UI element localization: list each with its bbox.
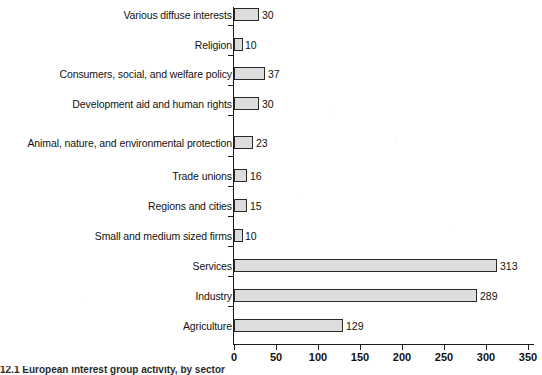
bar-value-label: 37 bbox=[268, 64, 280, 84]
bar-row: Industry 289 bbox=[0, 286, 534, 306]
bar-services bbox=[234, 259, 497, 272]
category-label: Religion bbox=[195, 35, 232, 55]
category-label: Trade unions bbox=[172, 166, 232, 186]
category-label: Various diffuse interests bbox=[123, 5, 232, 25]
x-axis-tick bbox=[402, 345, 403, 350]
x-axis-tick-label: 150 bbox=[340, 351, 380, 363]
y-axis-tick bbox=[228, 55, 234, 56]
bar-consumers-social-welfare-policy bbox=[234, 67, 265, 80]
bar-row: Animal, nature, and environmental protec… bbox=[0, 133, 534, 153]
category-label: Animal, nature, and environmental protec… bbox=[27, 133, 232, 153]
bar-industry bbox=[234, 289, 477, 302]
bar-regions-and-cities bbox=[234, 199, 247, 212]
bar-animal-nature-environmental-protection bbox=[234, 136, 253, 149]
y-axis-tick bbox=[228, 216, 234, 217]
category-label: Consumers, social, and welfare policy bbox=[59, 64, 232, 84]
x-axis-tick-label: 200 bbox=[382, 351, 422, 363]
bar-row: Small and medium sized firms 10 bbox=[0, 226, 534, 246]
category-label: Services bbox=[193, 256, 232, 276]
figure-caption: 12.1 European interest group activity, b… bbox=[0, 366, 534, 375]
x-axis-tick bbox=[276, 345, 277, 350]
bar-trade-unions bbox=[234, 169, 247, 182]
bar-row: Various diffuse interests 30 bbox=[0, 5, 534, 25]
category-label: Agriculture bbox=[183, 316, 232, 336]
bar-agriculture bbox=[234, 319, 343, 332]
bar-development-aid-human-rights bbox=[234, 97, 259, 110]
x-axis-tick-label: 100 bbox=[298, 351, 338, 363]
bar-value-label: 10 bbox=[245, 226, 257, 246]
category-label: Small and medium sized firms bbox=[95, 226, 232, 246]
y-axis-tick bbox=[228, 246, 234, 247]
bar-row: Agriculture 129 bbox=[0, 316, 534, 336]
y-axis-line bbox=[233, 7, 234, 345]
x-axis-tick bbox=[360, 345, 361, 350]
category-label: Industry bbox=[195, 286, 232, 306]
bar-various-diffuse-interests bbox=[234, 8, 259, 21]
bar-value-label: 289 bbox=[480, 286, 498, 306]
y-axis-tick bbox=[228, 85, 234, 86]
bar-row: Trade unions 16 bbox=[0, 166, 534, 186]
x-axis-tick bbox=[234, 345, 235, 350]
bar-row: Development aid and human rights 30 bbox=[0, 94, 534, 114]
x-axis-tick-label: 350 bbox=[508, 351, 542, 363]
y-axis-tick bbox=[228, 276, 234, 277]
x-axis-tick bbox=[318, 345, 319, 350]
y-axis-tick bbox=[228, 156, 234, 157]
bar-row: Consumers, social, and welfare policy 37 bbox=[0, 64, 534, 84]
bar-small-and-medium-sized-firms bbox=[234, 229, 243, 242]
x-axis-tick-label: 300 bbox=[466, 351, 506, 363]
x-axis-tick-label: 50 bbox=[256, 351, 296, 363]
bar-religion bbox=[234, 38, 243, 51]
bar-row: Religion 10 bbox=[0, 35, 534, 55]
x-axis-tick bbox=[444, 345, 445, 350]
x-axis-tick-label: 0 bbox=[214, 351, 254, 363]
figure-caption-text: 12.1 European interest group activity, b… bbox=[0, 366, 225, 375]
category-label: Development aid and human rights bbox=[72, 94, 232, 114]
x-axis-tick bbox=[486, 345, 487, 350]
category-label: Regions and cities bbox=[148, 196, 232, 216]
y-axis-tick bbox=[228, 306, 234, 307]
bar-value-label: 10 bbox=[245, 35, 257, 55]
x-axis-line bbox=[233, 344, 534, 345]
bar-value-label: 16 bbox=[250, 166, 262, 186]
bar-value-label: 30 bbox=[262, 94, 274, 114]
bar-value-label: 30 bbox=[262, 5, 274, 25]
bar-value-label: 313 bbox=[500, 256, 518, 276]
y-axis-tick bbox=[228, 115, 234, 116]
x-axis-tick bbox=[528, 345, 529, 350]
bar-value-label: 15 bbox=[250, 196, 262, 216]
x-axis-tick-label: 250 bbox=[424, 351, 464, 363]
y-axis-tick bbox=[228, 186, 234, 187]
bar-row: Regions and cities 15 bbox=[0, 196, 534, 216]
y-axis-tick bbox=[228, 25, 234, 26]
bar-value-label: 129 bbox=[346, 316, 364, 336]
bar-row: Services 313 bbox=[0, 256, 534, 276]
bar-value-label: 23 bbox=[256, 133, 268, 153]
